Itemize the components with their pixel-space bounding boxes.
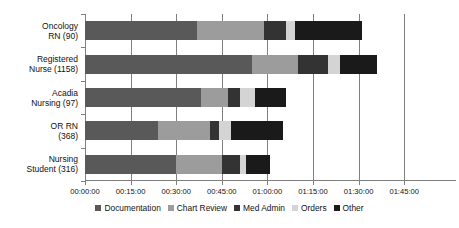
legend-label: Documentation [104, 203, 160, 213]
x-axis-tick-mark [359, 181, 360, 185]
x-axis-tick-label: 00:45:00 [199, 187, 245, 196]
y-axis-category-label-line: Acadia [2, 88, 78, 98]
x-axis-line [85, 180, 456, 181]
legend-item[interactable]: Other [334, 203, 364, 213]
bar-segment[interactable] [201, 88, 228, 107]
x-axis-tick-label: 00:00:00 [62, 187, 108, 196]
bar-segment[interactable] [298, 55, 328, 74]
bar-stack [85, 121, 283, 140]
bar-segment[interactable] [85, 88, 201, 107]
legend-item[interactable]: Documentation [95, 203, 160, 213]
y-axis-category-label-line: Nursing (97) [2, 98, 78, 108]
legend-label: Orders [301, 203, 327, 213]
x-axis-tick-mark [131, 181, 132, 185]
bar-segment[interactable] [340, 55, 376, 74]
bar-segment[interactable] [85, 121, 158, 140]
y-axis-category-label: OR RN(368) [2, 121, 78, 141]
stacked-bar-chart: DocumentationChart ReviewMed AdminOrders… [0, 0, 459, 228]
x-axis-tick-mark [176, 181, 177, 185]
legend-swatch-icon [334, 205, 340, 211]
y-axis-tick-mark [81, 148, 85, 149]
y-axis-category-label-line: Oncology [2, 21, 78, 31]
legend-swatch-icon [292, 205, 298, 211]
bar-segment[interactable] [85, 21, 197, 40]
bar-segment[interactable] [240, 88, 255, 107]
bar-segment[interactable] [286, 21, 295, 40]
legend-item[interactable]: Chart Review [168, 203, 227, 213]
y-axis-tick-mark [81, 81, 85, 82]
x-axis-tick-mark [313, 181, 314, 185]
x-axis-tick-mark [404, 181, 405, 185]
legend-swatch-icon [168, 205, 174, 211]
y-axis-category-label-line: Nursing [2, 154, 78, 164]
bar-stack [85, 55, 377, 74]
bar-segment[interactable] [210, 121, 219, 140]
x-axis-tick-mark [85, 181, 86, 185]
bar-segment[interactable] [85, 55, 252, 74]
bar-segment[interactable] [176, 155, 222, 174]
x-axis-tick-label: 01:00:00 [244, 187, 290, 196]
bar-stack [85, 21, 362, 40]
x-axis-tick-label: 00:30:00 [153, 187, 199, 196]
bar-segment[interactable] [246, 155, 270, 174]
bar-segment[interactable] [252, 55, 298, 74]
legend-label: Other [343, 203, 364, 213]
bar-stack [85, 155, 270, 174]
legend-label: Med Admin [243, 203, 285, 213]
y-axis-category-label-line: Student (316) [2, 164, 78, 174]
y-axis-category-label-line: Nurse (1158) [2, 64, 78, 74]
y-axis-category-label: OncologyRN (90) [2, 21, 78, 41]
chart-legend: DocumentationChart ReviewMed AdminOrders… [0, 203, 459, 213]
bar-segment[interactable] [222, 155, 240, 174]
bar-segment[interactable] [85, 155, 176, 174]
y-axis-category-label: RegisteredNurse (1158) [2, 54, 78, 74]
bar-stack [85, 88, 286, 107]
x-axis-tick-label: 01:15:00 [290, 187, 336, 196]
x-axis-tick-mark [222, 181, 223, 185]
x-axis-tick-label: 01:45:00 [381, 187, 427, 196]
legend-item[interactable]: Med Admin [234, 203, 285, 213]
y-axis-category-label-line: OR RN [2, 121, 78, 131]
legend-swatch-icon [95, 205, 101, 211]
bar-segment[interactable] [328, 55, 340, 74]
y-axis-tick-mark [81, 14, 85, 15]
legend-label: Chart Review [177, 203, 227, 213]
y-axis-category-label-line: (368) [2, 131, 78, 141]
bar-segment[interactable] [231, 121, 283, 140]
bar-segment[interactable] [219, 121, 231, 140]
gridline [404, 14, 405, 181]
y-axis-category-label-line: RN (90) [2, 31, 78, 41]
legend-swatch-icon [234, 205, 240, 211]
x-axis-tick-label: 01:30:00 [336, 187, 382, 196]
y-axis-category-label: NursingStudent (316) [2, 154, 78, 174]
y-axis-category-label-line: Registered [2, 54, 78, 64]
x-axis-tick-mark [267, 181, 268, 185]
bar-segment[interactable] [158, 121, 210, 140]
y-axis-tick-mark [81, 114, 85, 115]
bar-segment[interactable] [197, 21, 264, 40]
x-axis-tick-label: 00:15:00 [108, 187, 154, 196]
bar-segment[interactable] [255, 88, 285, 107]
y-axis-tick-mark [81, 47, 85, 48]
plot-area [85, 14, 404, 181]
y-axis-category-label: AcadiaNursing (97) [2, 88, 78, 108]
bar-segment[interactable] [264, 21, 285, 40]
legend-item[interactable]: Orders [292, 203, 327, 213]
bar-segment[interactable] [295, 21, 362, 40]
bar-segment[interactable] [228, 88, 240, 107]
